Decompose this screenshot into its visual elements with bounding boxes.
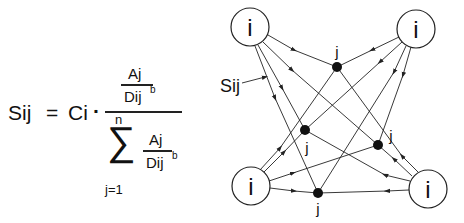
flow-lines [242,35,418,193]
origin-node-bottom-right: i [409,170,447,208]
origin-label: i [413,16,418,43]
destination-label: j [315,200,319,217]
destination-node-right [373,140,383,150]
destination-node-left [300,125,310,135]
origin-node-top-left: i [231,8,269,46]
origin-label: i [247,14,252,41]
origin-label: i [425,176,430,203]
destination-node-bottom [313,188,323,198]
destination-label: j [334,43,338,60]
origin-node-bottom-left: i [232,167,270,205]
origin-node-top-right: i [397,10,435,48]
destination-nodes [300,62,383,198]
flow-label: Sij [220,76,240,96]
destination-node-top [332,62,342,72]
flow-network-diagram: i i i i j j j j Sij [0,0,464,223]
origin-label: i [248,173,253,200]
destination-label: j [388,127,392,144]
destination-label: j [304,139,308,156]
